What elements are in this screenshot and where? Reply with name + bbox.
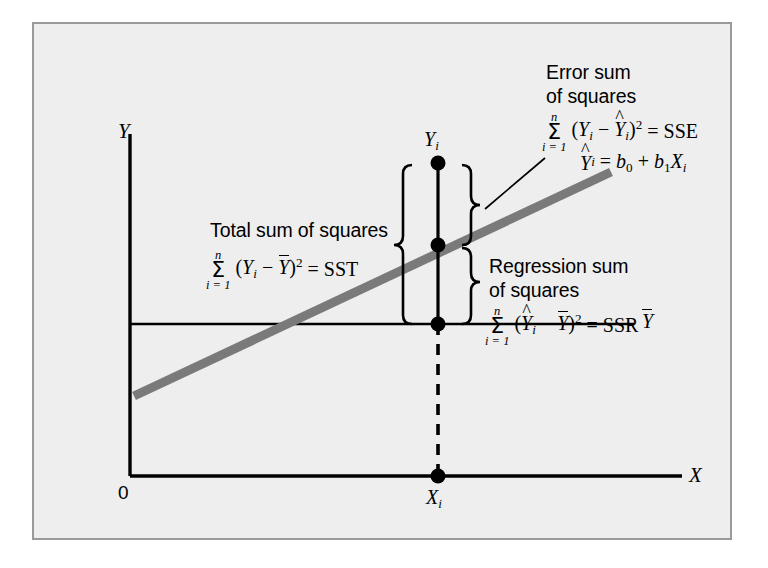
x-axis-label: X [689,464,702,488]
yhat-letter: Y [580,152,591,174]
y-bar-label: Y [642,310,653,332]
y-bar-letter: Y [642,310,653,332]
point-y-mean [431,317,446,332]
ssr-summation-operator: n Σ i = 1 [485,305,509,347]
ssr-result: = SSR [587,314,639,336]
bracket-total [394,165,412,324]
sigma-icon: Σ [547,122,561,142]
x-i-label: Xi [426,486,442,511]
point-y-fitted [431,238,446,253]
sse-title-line1: Error sum [546,62,631,84]
sst-result: = SST [308,258,359,280]
ssr-formula: n Σ i = 1 (Yi − Y)2 = SSR [485,304,638,346]
sst-summation-operator: n Σ i = 1 [206,249,230,291]
sst-expression: (Yi − Y)2 [235,256,302,281]
ssr-sum-lower: i = 1 [485,335,509,348]
y-i-subscript: i [435,138,439,153]
y-i-label: Yi [424,128,439,153]
figure-frame: Y X 0 Yi Xi Y Error sum of squares n Σ i… [32,22,732,540]
sse-leader-line [485,158,545,209]
sse-title-line2: of squares [546,86,636,108]
sse-result: = SSE [647,120,698,142]
ssr-expression: (Yi − Y)2 [514,312,581,337]
x-i-subscript: i [438,496,442,511]
regression-equation: Yi = b0 + b1Xi [580,150,686,175]
sst-sum-lower: i = 1 [206,279,230,292]
ssr-title-line2: of squares [489,280,579,302]
sst-title-line1: Total sum of squares [210,220,388,242]
x-i-letter: X [426,486,438,508]
ssr-title-line1: Regression sum [489,256,629,278]
sse-formula: n Σ i = 1 (Yi − Yi)2 = SSE [542,110,698,152]
sst-formula: n Σ i = 1 (Yi − Y)2 = SST [206,248,358,290]
sigma-icon: Σ [211,260,225,280]
origin-label: 0 [118,482,129,503]
y-i-letter: Y [424,128,435,150]
sigma-icon: Σ [490,316,504,336]
point-x-i [431,469,446,484]
regression-equation-rhs: = b0 + b1Xi [600,150,687,175]
bracket-regression [462,248,480,324]
sse-summation-operator: n Σ i = 1 [542,111,566,153]
sse-sum-lower: i = 1 [542,141,566,154]
y-axis-label: Y [118,120,130,144]
point-y-observed [431,156,446,171]
